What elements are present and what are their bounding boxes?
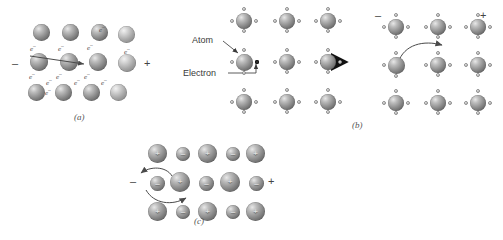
valence-electron — [338, 60, 342, 64]
valence-electron — [448, 25, 452, 29]
bonded-atom — [236, 94, 252, 110]
valence-electron — [424, 25, 428, 29]
valence-electron — [230, 100, 234, 104]
panel-c-caption: (c) — [194, 216, 204, 226]
valence-electron — [326, 70, 330, 74]
bonded-atom — [470, 57, 486, 73]
valence-electron — [488, 63, 492, 67]
conduction-mechanisms-figure: – + e– e– e– e– e– e– e– e– e– e– e– e– — [0, 0, 503, 240]
valence-electron — [476, 111, 480, 115]
panel-a-drift-arrow — [0, 0, 175, 135]
valence-electron — [338, 19, 342, 23]
valence-electron — [242, 7, 246, 11]
bonded-atom — [320, 94, 336, 110]
valence-electron — [448, 101, 452, 105]
bonded-atom — [470, 95, 486, 111]
bonded-atom — [320, 54, 336, 70]
valence-electron — [285, 88, 289, 92]
valence-electron — [230, 60, 234, 64]
valence-electron — [242, 88, 246, 92]
valence-electron — [464, 25, 468, 29]
valence-electron — [254, 19, 258, 23]
panel-b-negative-sign: – — [375, 10, 381, 21]
valence-electron — [394, 111, 398, 115]
valence-electron — [297, 60, 301, 64]
valence-electron — [394, 13, 398, 17]
panel-a-caption: (a) — [74, 112, 85, 122]
valence-electron — [424, 101, 428, 105]
bonded-atom — [388, 19, 404, 35]
valence-electron — [424, 63, 428, 67]
valence-electron — [382, 101, 386, 105]
valence-electron — [436, 73, 440, 77]
valence-electron — [436, 111, 440, 115]
valence-electron — [488, 25, 492, 29]
bonded-atom — [279, 13, 295, 29]
valence-electron — [285, 29, 289, 33]
valence-electron — [273, 19, 277, 23]
bonded-atom — [430, 19, 446, 35]
valence-electron — [326, 29, 330, 33]
valence-electron — [314, 19, 318, 23]
valence-electron — [464, 101, 468, 105]
panel-b-covalent: Atom Electron — [180, 0, 503, 135]
valence-electron — [406, 101, 410, 105]
valence-electron — [255, 60, 259, 64]
valence-electron — [476, 51, 480, 55]
bonded-atom — [430, 95, 446, 111]
valence-electron — [382, 25, 386, 29]
valence-electron — [273, 100, 277, 104]
valence-electron — [382, 63, 386, 67]
valence-electron — [285, 110, 289, 114]
valence-electron — [436, 51, 440, 55]
valence-electron — [436, 13, 440, 17]
valence-electron — [436, 89, 440, 93]
bonded-atom — [388, 95, 404, 111]
valence-electron — [326, 110, 330, 114]
valence-electron — [326, 88, 330, 92]
valence-electron — [273, 60, 277, 64]
bonded-atom — [470, 19, 486, 35]
panel-a-metallic: – + e– e– e– e– e– e– e– e– e– e– e– e– — [0, 0, 175, 135]
valence-electron — [448, 63, 452, 67]
valence-electron — [326, 48, 330, 52]
panel-b-caption: (b) — [352, 120, 363, 130]
bonded-atom — [430, 57, 446, 73]
valence-electron — [326, 7, 330, 11]
valence-electron — [242, 29, 246, 33]
valence-electron — [242, 71, 246, 75]
valence-electron — [394, 35, 398, 39]
valence-electron — [476, 89, 480, 93]
valence-electron — [314, 100, 318, 104]
valence-electron — [488, 101, 492, 105]
bonded-atom — [236, 54, 253, 71]
panel-c-migration-arrows — [110, 136, 400, 240]
valence-electron — [476, 73, 480, 77]
valence-electron — [464, 63, 468, 67]
bonded-atom — [320, 13, 336, 29]
valence-electron — [242, 110, 246, 114]
panel-c-ionic: – + + – + – + – + – + – + – + – + — [110, 136, 400, 240]
valence-electron — [338, 100, 342, 104]
valence-electron — [285, 48, 289, 52]
bonded-atom — [279, 94, 295, 110]
valence-electron — [314, 60, 318, 64]
bonded-atom — [236, 13, 252, 29]
valence-electron — [242, 48, 246, 52]
valence-electron — [436, 35, 440, 39]
valence-electron — [285, 70, 289, 74]
valence-electron — [285, 7, 289, 11]
valence-electron — [394, 51, 398, 55]
valence-electron — [254, 100, 258, 104]
valence-electron — [230, 19, 234, 23]
valence-electron — [297, 100, 301, 104]
valence-electron — [394, 89, 398, 93]
bonded-atom — [279, 54, 295, 70]
valence-electron — [406, 25, 410, 29]
valence-electron — [476, 13, 480, 17]
bonded-atom — [388, 57, 405, 74]
valence-electron — [476, 35, 480, 39]
valence-electron — [394, 74, 398, 78]
valence-electron — [297, 19, 301, 23]
